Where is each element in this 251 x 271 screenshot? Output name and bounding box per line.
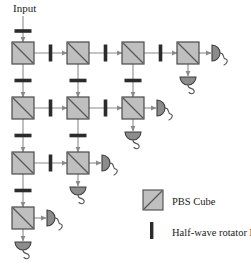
photodetector <box>102 155 117 175</box>
pbs-cube <box>12 207 34 229</box>
pbs-cube <box>67 42 89 64</box>
half-wave-rotator <box>15 29 32 33</box>
detector-wire <box>110 163 117 175</box>
diagram-canvas: Input PBS Cube Half-wave rotator R 45 <box>0 0 251 271</box>
detector-body <box>157 100 165 116</box>
pbs-cube <box>122 42 144 64</box>
pbs-cube <box>12 152 34 174</box>
photodetector <box>157 100 172 120</box>
half-wave-rotator <box>49 100 53 117</box>
detector-body <box>70 187 86 195</box>
photodetector <box>47 210 62 230</box>
photodetector <box>180 77 196 94</box>
photodetector <box>70 187 86 204</box>
half-wave-rotator <box>125 79 142 83</box>
detector-body <box>47 210 55 226</box>
detector-body <box>15 242 31 250</box>
legend-half-wave-rotator-icon <box>150 222 153 239</box>
half-wave-rotator <box>15 79 32 83</box>
detector-wire <box>78 195 84 204</box>
detector-body <box>102 155 110 171</box>
pbs-cube <box>177 42 199 64</box>
detector-wire <box>188 85 194 94</box>
pbs-cubes-group <box>12 42 199 229</box>
half-wave-rotator <box>49 155 53 172</box>
legend-pbs-cube-label: PBS Cube <box>172 196 216 207</box>
half-wave-rotator <box>15 189 32 193</box>
photodetector <box>15 242 31 259</box>
pbs-cube <box>12 42 34 64</box>
legend-half-wave-rotator-label: Half-wave rotator R <box>172 227 251 238</box>
input-label: Input <box>13 2 36 14</box>
pbs-cube <box>67 152 89 174</box>
pbs-cube <box>122 97 144 119</box>
legend: PBS Cube Half-wave rotator R 45 <box>143 190 251 241</box>
detector-wire <box>165 108 172 120</box>
detector-body <box>212 45 220 61</box>
detector-body <box>125 132 141 140</box>
detector-wire <box>220 53 227 65</box>
half-wave-rotator <box>70 134 87 138</box>
pbs-cube <box>12 97 34 119</box>
half-wave-rotator <box>49 45 53 62</box>
half-wave-rotator <box>70 79 87 83</box>
pbs-network-figure: Input PBS Cube Half-wave rotator R 45 <box>0 0 251 271</box>
pbs-cube <box>67 97 89 119</box>
half-wave-rotator <box>159 45 163 62</box>
half-wave-rotator <box>104 100 108 117</box>
detector-wire <box>133 140 139 149</box>
detector-wire <box>23 250 29 259</box>
photodetector <box>212 45 227 65</box>
detector-body <box>180 77 196 85</box>
half-wave-rotator <box>15 134 32 138</box>
half-wave-rotator <box>104 45 108 62</box>
detector-wire <box>55 218 62 230</box>
photodetector <box>125 132 141 149</box>
